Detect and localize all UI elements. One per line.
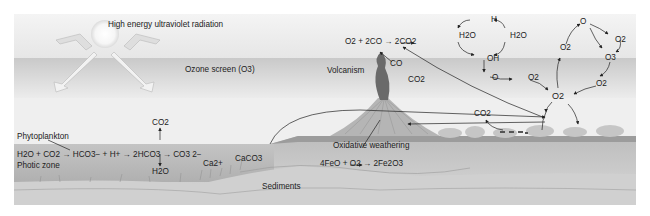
sediments-label: Sediments [262, 183, 301, 191]
central-o2-node: O2 [552, 92, 564, 101]
diagram-artwork [0, 0, 650, 216]
photolysis-node-o2: O2 [528, 74, 539, 82]
eq-step2: 2HCO3 [133, 150, 160, 159]
eq-step3-top: CO3 2− [173, 150, 201, 159]
volcano-co2-label: CO2 [408, 76, 425, 84]
ozone-node-o2-left: O2 [560, 44, 571, 52]
photic-zone-label: Photic zone [17, 162, 60, 170]
ozone-screen-label: Ozone screen (O3) [185, 66, 255, 74]
photolysis-node-h: H [491, 16, 497, 24]
co-oxidation-equation: O2 + 2CO → 2CO2 [345, 38, 416, 46]
oxygen-cycle-diagram: High energy ultraviolet radiation Ozone … [0, 0, 650, 216]
eq-step2-down: H2O [152, 168, 169, 176]
volcanism-label: Volcanism [327, 67, 364, 75]
eq-product: CaCO3 [235, 155, 262, 163]
ozone-band [14, 58, 636, 98]
ozone-node-o2-bottom: O2 [596, 80, 607, 88]
co-label: CO [390, 60, 402, 68]
eq-step2-up: CO2 [152, 119, 169, 127]
photolysis-node-o: O [492, 74, 498, 82]
eq-step3-bottom: Ca2+ [203, 160, 223, 168]
uv-radiation-label: High energy ultraviolet radiation [108, 21, 223, 29]
photolysis-node-h2o-right: H2O [510, 32, 527, 40]
iron-oxidation-equation: 4FeO + O2 → 2Fe2O3 [320, 160, 403, 168]
ozone-node-o: O [580, 18, 586, 26]
eq-step1: HCO3− + H+ [73, 150, 121, 159]
animal-co2-label: CO2 [474, 110, 491, 118]
eq-reactants: H2O + CO2 [17, 150, 60, 159]
photolysis-node-h2o-left: H2O [459, 32, 476, 40]
ozone-node-o3: O3 [605, 54, 616, 62]
oxidative-weathering-label: Oxidative weathering [333, 142, 409, 150]
photolysis-node-oh: OH [487, 55, 499, 63]
phytoplankton-label: Phytoplankton [17, 133, 69, 141]
carbonate-equation: H2O + CO2 → HCO3− + H+ → 2HCO3 → CO3 2− [17, 151, 202, 159]
ozone-node-o2-right: O2 [615, 36, 626, 44]
